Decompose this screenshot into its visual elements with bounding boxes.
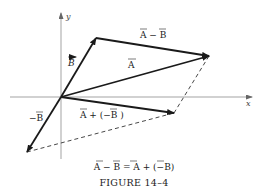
vector-a (61, 56, 209, 97)
x-axis-label: x (246, 99, 251, 108)
caption-equation: A − B = A + (−B) (93, 161, 175, 172)
svg-text:−B: −B (29, 113, 44, 123)
label-b: B (67, 57, 76, 68)
label-neg-b: −B (29, 112, 44, 123)
y-axis-label: y (65, 12, 71, 21)
label-a: A (127, 59, 136, 70)
vector-diagram: x y B A A − B −B A + (−B ) A − B = A + (… (0, 0, 263, 195)
svg-text:A − B = A + (−B): A − B = A + (−B) (93, 162, 175, 172)
vector-a-minus-b (96, 38, 209, 56)
svg-text:A − B: A − B (139, 30, 167, 40)
svg-text:B: B (67, 58, 75, 68)
label-a-plus-neg-b: A + (−B ) (79, 109, 124, 120)
label-a-minus-b: A − B (139, 29, 167, 40)
figure-title: FIGURE 14–4 (99, 177, 168, 188)
svg-text:A + (−B ): A + (−B ) (79, 110, 124, 120)
vector-neg-b (27, 97, 61, 152)
svg-text:A: A (127, 60, 135, 70)
